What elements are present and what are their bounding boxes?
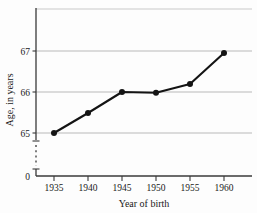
data-point-1940 [85, 110, 91, 116]
data-point-1960 [221, 50, 227, 56]
x-tick-label-1960: 1960 [215, 183, 234, 193]
y-axis-title: Age, in years [4, 73, 15, 126]
chart-background [0, 0, 257, 213]
data-point-1945 [119, 89, 125, 95]
data-point-1955 [187, 81, 193, 87]
y-tick-label-0: 0 [25, 172, 30, 182]
x-tick-label-1935: 1935 [45, 183, 64, 193]
chart-container: 67 66 65 0 1935 1940 1945 1950 1955 1960… [0, 0, 257, 213]
x-tick-label-1955: 1955 [181, 183, 200, 193]
x-tick-label-1950: 1950 [147, 183, 166, 193]
line-chart: 67 66 65 0 1935 1940 1945 1950 1955 1960… [0, 0, 257, 213]
data-point-1950 [153, 90, 159, 96]
y-tick-label-67: 67 [21, 47, 31, 57]
x-tick-label-1945: 1945 [113, 183, 132, 193]
data-point-1935 [51, 130, 57, 136]
y-tick-label-65: 65 [21, 129, 31, 139]
y-tick-label-66: 66 [21, 88, 31, 98]
x-axis-title: Year of birth [119, 198, 170, 209]
x-tick-label-1940: 1940 [79, 183, 98, 193]
